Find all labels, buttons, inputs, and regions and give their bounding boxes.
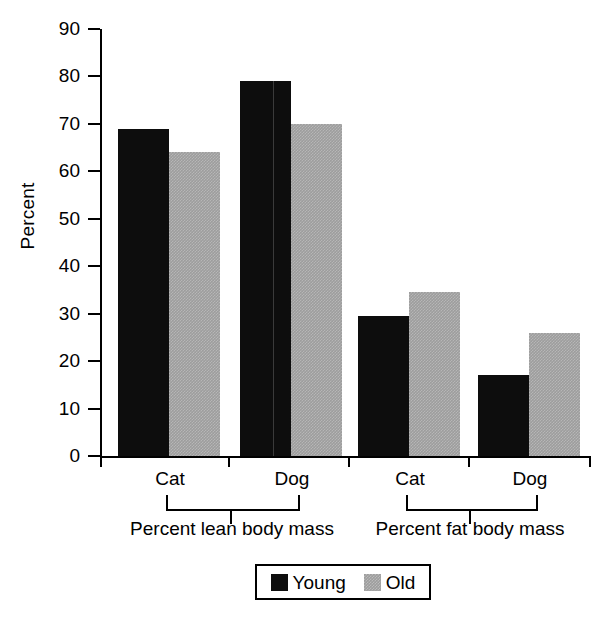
bar-chart: Percent 9080706050403020100 CatDogCatDog… bbox=[0, 0, 611, 625]
black-swatch-icon bbox=[271, 574, 288, 591]
bar-cat-old-lean bbox=[169, 152, 220, 456]
x-axis-tick bbox=[348, 456, 350, 467]
y-axis-tick bbox=[88, 170, 100, 172]
group-bracket bbox=[166, 495, 300, 511]
y-axis-tick-label: 50 bbox=[34, 209, 80, 228]
y-axis-tick-label: 70 bbox=[34, 114, 80, 133]
y-axis-tick bbox=[88, 360, 100, 362]
y-axis-tick bbox=[88, 75, 100, 77]
bar-dog-young-fat bbox=[478, 375, 529, 456]
y-axis-tick-label: 0 bbox=[34, 446, 80, 465]
group-label: Percent fat body mass bbox=[345, 518, 595, 540]
y-axis-tick bbox=[88, 455, 100, 457]
x-axis-tick bbox=[589, 456, 591, 467]
y-axis-tick-label: 10 bbox=[34, 399, 80, 418]
legend-item-young: Young bbox=[271, 573, 346, 592]
y-axis-tick bbox=[88, 408, 100, 410]
y-axis-tick-label: 20 bbox=[34, 351, 80, 370]
y-axis-tick-label: 80 bbox=[34, 66, 80, 85]
y-axis-tick-label: 90 bbox=[34, 19, 80, 38]
gray-swatch-icon bbox=[364, 574, 381, 591]
x-axis-category-label: Dog bbox=[247, 468, 337, 490]
plot-area bbox=[102, 29, 591, 456]
y-axis-tick-label: 30 bbox=[34, 304, 80, 323]
group-label: Percent lean body mass bbox=[107, 518, 357, 540]
x-axis-category-label: Cat bbox=[125, 468, 215, 490]
bar-dog-old-lean bbox=[291, 124, 342, 456]
x-axis-tick bbox=[100, 456, 102, 467]
group-bracket bbox=[406, 495, 538, 511]
x-axis-line bbox=[100, 456, 591, 458]
x-axis-category-label: Cat bbox=[365, 468, 455, 490]
legend-label-young: Young bbox=[293, 573, 346, 592]
bar-cat-young-fat bbox=[358, 316, 409, 456]
y-axis-tick-label: 60 bbox=[34, 161, 80, 180]
y-axis-tick bbox=[88, 313, 100, 315]
legend: Young Old bbox=[255, 564, 431, 600]
x-axis-tick bbox=[468, 456, 470, 467]
legend-label-old: Old bbox=[386, 573, 416, 592]
bar-cat-old-fat bbox=[409, 292, 460, 456]
bar-cat-young-lean bbox=[118, 129, 169, 456]
y-axis-tick bbox=[88, 265, 100, 267]
x-axis-category-label: Dog bbox=[485, 468, 575, 490]
y-axis-tick bbox=[88, 123, 100, 125]
legend-item-old: Old bbox=[364, 573, 416, 592]
y-axis-tick-label: 40 bbox=[34, 256, 80, 275]
x-axis-tick bbox=[228, 456, 230, 467]
bar-dog-old-fat bbox=[529, 333, 580, 456]
bar-dog-young-lean bbox=[240, 81, 291, 456]
y-axis-tick bbox=[88, 28, 100, 30]
scan-artifact-line bbox=[273, 81, 274, 456]
y-axis-tick bbox=[88, 218, 100, 220]
